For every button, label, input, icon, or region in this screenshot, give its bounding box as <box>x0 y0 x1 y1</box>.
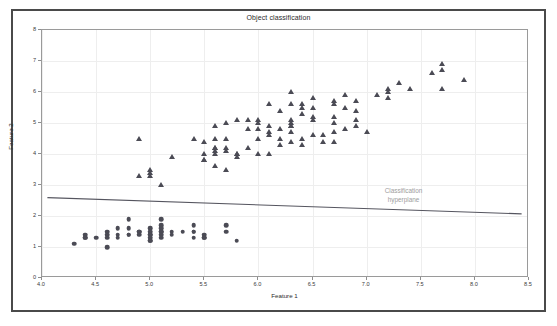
x-axis-tick <box>41 277 42 280</box>
gridline-horizontal <box>42 216 527 217</box>
data-point-triangle <box>288 139 294 144</box>
gridline-horizontal <box>42 247 527 248</box>
data-point-circle <box>105 245 110 250</box>
gridline-vertical <box>42 30 43 276</box>
data-point-triangle <box>266 132 272 137</box>
data-point-triangle <box>288 89 294 94</box>
data-point-triangle <box>439 67 445 72</box>
data-point-circle <box>115 235 120 240</box>
gridline-horizontal <box>42 123 527 124</box>
x-axis-tick <box>474 277 475 280</box>
data-point-triangle <box>288 101 294 106</box>
y-axis-tick <box>38 122 41 123</box>
data-point-circle <box>94 235 99 240</box>
x-axis-tick-label: 5.0 <box>145 281 153 287</box>
data-point-triangle <box>277 126 283 131</box>
data-point-triangle <box>212 123 218 128</box>
data-point-triangle <box>353 117 359 122</box>
y-axis-tick-label: 3 <box>25 181 36 187</box>
figure-window: Object classification 4.04.55.05.56.06.5… <box>11 9 546 312</box>
y-axis-tick <box>38 91 41 92</box>
data-point-triangle <box>439 86 445 91</box>
hyperplane-annotation-line2: hyperplane <box>385 195 423 204</box>
y-axis-tick-label: 2 <box>25 212 36 218</box>
data-point-triangle <box>299 142 305 147</box>
data-point-triangle <box>255 136 261 141</box>
y-axis-tick-label: 7 <box>25 57 36 63</box>
gridline-horizontal <box>42 185 527 186</box>
data-point-circle <box>235 239 240 244</box>
y-axis-tick <box>38 184 41 185</box>
data-point-circle <box>137 232 142 237</box>
data-point-triangle <box>191 136 197 141</box>
data-point-triangle <box>342 126 348 131</box>
data-point-triangle <box>310 105 316 110</box>
x-axis-tick <box>528 277 529 280</box>
data-point-triangle <box>353 108 359 113</box>
scatter-chart: Object classification 4.04.55.05.56.06.5… <box>13 11 544 310</box>
data-point-triangle <box>342 92 348 97</box>
x-axis-tick <box>257 277 258 280</box>
y-axis-tick-label: 8 <box>25 26 36 32</box>
y-axis-tick <box>38 277 41 278</box>
data-point-triangle <box>245 126 251 131</box>
data-point-triangle <box>396 80 402 85</box>
x-axis-tick-label: 4.5 <box>91 281 99 287</box>
data-point-triangle <box>461 77 467 82</box>
data-point-circle <box>159 217 164 222</box>
data-point-triangle <box>385 95 391 100</box>
data-point-triangle <box>429 70 435 75</box>
data-point-circle <box>126 232 131 237</box>
data-point-triangle <box>288 129 294 134</box>
data-point-triangle <box>136 136 142 141</box>
y-axis-tick-label: 0 <box>25 274 36 280</box>
data-point-circle <box>105 229 110 234</box>
data-point-circle <box>148 239 153 244</box>
data-point-circle <box>191 229 196 234</box>
data-point-triangle <box>331 139 337 144</box>
data-point-triangle <box>342 105 348 110</box>
x-axis-label: Feature 1 <box>41 292 528 299</box>
y-axis-tick <box>38 215 41 216</box>
data-point-triangle <box>158 182 164 187</box>
gridline-vertical <box>313 30 314 276</box>
x-axis-tick <box>312 277 313 280</box>
data-point-circle <box>126 226 131 231</box>
data-point-circle <box>224 229 229 234</box>
gridline-horizontal <box>42 92 527 93</box>
y-axis-tick-label: 6 <box>25 88 36 94</box>
y-axis-tick <box>38 246 41 247</box>
data-point-triangle <box>320 139 326 144</box>
data-point-triangle <box>169 154 175 159</box>
y-axis-tick-label: 5 <box>25 119 36 125</box>
data-point-circle <box>159 235 164 240</box>
data-point-circle <box>126 217 131 222</box>
x-axis-tick <box>420 277 421 280</box>
x-axis-tick-label: 6.0 <box>254 281 262 287</box>
data-point-triangle <box>331 120 337 125</box>
data-point-triangle <box>288 123 294 128</box>
data-point-triangle <box>212 151 218 156</box>
gridline-horizontal <box>42 154 527 155</box>
data-point-triangle <box>331 129 337 134</box>
data-point-triangle <box>212 163 218 168</box>
data-point-triangle <box>407 86 413 91</box>
chart-title: Object classification <box>13 14 544 21</box>
y-axis-label: Feature 2 <box>7 123 14 149</box>
data-point-circle <box>191 223 196 228</box>
x-axis-tick-label: 7.0 <box>362 281 370 287</box>
x-axis-tick-label: 8.5 <box>524 281 532 287</box>
data-point-triangle <box>201 139 207 144</box>
data-point-circle <box>202 235 207 240</box>
data-point-triangle <box>385 89 391 94</box>
x-axis-tick <box>95 277 96 280</box>
data-point-circle <box>72 242 77 247</box>
data-point-triangle <box>136 173 142 178</box>
y-axis-tick <box>38 60 41 61</box>
data-point-triangle <box>277 136 283 141</box>
data-point-triangle <box>310 132 316 137</box>
data-point-triangle <box>212 136 218 141</box>
data-point-triangle <box>223 136 229 141</box>
data-point-triangle <box>439 61 445 66</box>
y-axis-tick-label: 1 <box>25 243 36 249</box>
